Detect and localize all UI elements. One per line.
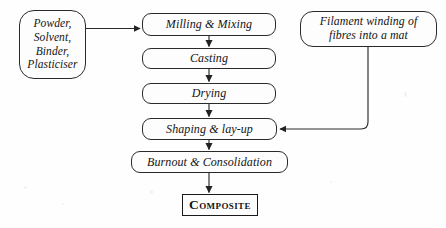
node-feedstock[interactable]: Powder, Solvent, Binder, Plasticiser bbox=[19, 10, 86, 79]
node-burnout-and-consolidation[interactable]: Burnout & Consolidation bbox=[131, 151, 288, 173]
node-drying[interactable]: Drying bbox=[142, 83, 276, 104]
node-casting[interactable]: Casting bbox=[142, 48, 276, 69]
node-milling-and-mixing[interactable]: Milling & Mixing bbox=[142, 13, 276, 36]
node-shaping-label: Shaping & lay-up bbox=[161, 122, 258, 136]
node-casting-label: Casting bbox=[185, 51, 233, 65]
node-drying-label: Drying bbox=[187, 86, 232, 100]
node-composite[interactable]: Composite bbox=[182, 194, 258, 216]
node-feedstock-label: Powder, Solvent, Binder, Plasticiser bbox=[22, 17, 82, 71]
node-filament-winding[interactable]: Filament winding of fibres into a mat bbox=[300, 11, 437, 47]
node-filament-label: Filament winding of fibres into a mat bbox=[315, 15, 423, 43]
flowchart-canvas: Powder, Solvent, Binder, Plasticiser Mil… bbox=[0, 0, 446, 228]
node-composite-label: Composite bbox=[184, 197, 256, 213]
node-milling-label: Milling & Mixing bbox=[161, 17, 257, 31]
node-burnout-label: Burnout & Consolidation bbox=[142, 155, 277, 169]
node-shaping-and-layup[interactable]: Shaping & lay-up bbox=[142, 118, 277, 140]
edge-filament-to-shaping bbox=[280, 47, 368, 129]
